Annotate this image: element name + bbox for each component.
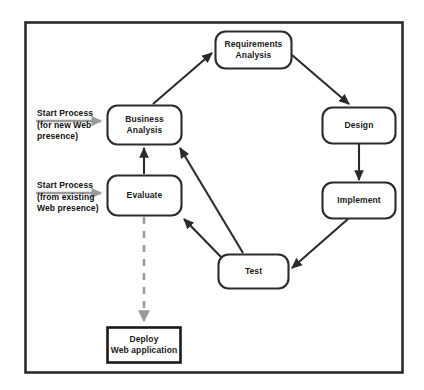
node-test [219, 255, 289, 289]
diagram-canvas [0, 0, 424, 390]
node-design [323, 108, 396, 144]
node-evaluate [108, 176, 182, 216]
process-diagram: Requirements Analysis Design Implement T… [0, 0, 424, 390]
edge-requirements-analysis-to-design [292, 55, 349, 104]
edge-test-to-evaluate [184, 219, 222, 258]
edge-test-to-business-analysis [180, 148, 243, 253]
node-deploy [108, 328, 181, 363]
node-requirements-analysis [216, 32, 292, 69]
edge-implement-to-test [292, 219, 348, 268]
edge-business-analysis-to-requirements-analysis [153, 53, 212, 104]
node-implement [323, 183, 396, 219]
node-business-analysis [108, 106, 182, 145]
